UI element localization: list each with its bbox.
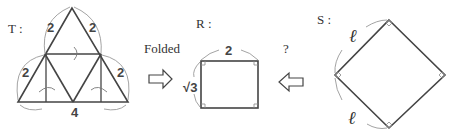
folding-diagram: 2 2 2 2 4 2 √3 xyxy=(0,0,453,137)
triangle-t xyxy=(18,8,128,102)
folded-label: Folded xyxy=(144,42,180,55)
r-shape-label: R : xyxy=(196,17,212,30)
triangle-dimension-arcs xyxy=(17,7,129,110)
arrow-left-icon xyxy=(279,73,303,91)
s-side-label-2: ℓ xyxy=(348,108,356,128)
t-shape-label: T : xyxy=(8,22,23,35)
rectangle-r xyxy=(194,50,258,108)
arrow-right-icon xyxy=(149,70,172,88)
t-side-label-1: 2 xyxy=(47,20,54,35)
diagram-canvas: 2 2 2 2 4 2 √3 xyxy=(0,0,453,137)
t-side-label-4: 2 xyxy=(117,65,124,80)
s-shape-label: S : xyxy=(317,13,331,26)
r-top-label: 2 xyxy=(225,43,232,58)
s-side-label-1: ℓ xyxy=(349,26,357,46)
t-side-label-2: 2 xyxy=(89,20,96,35)
t-base-label: 4 xyxy=(71,105,79,120)
question-label: ? xyxy=(283,42,289,55)
t-side-label-3: 2 xyxy=(22,65,29,80)
r-side-label: √3 xyxy=(183,80,197,95)
